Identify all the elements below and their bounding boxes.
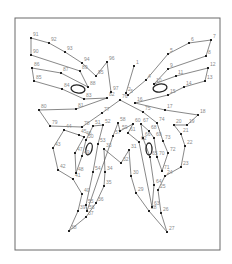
dot-number-label: 79 bbox=[52, 119, 58, 125]
dot-number-label: 40 bbox=[84, 187, 90, 193]
dot-number-label: 31 bbox=[131, 143, 137, 149]
dot-number-label: 3 bbox=[130, 88, 133, 94]
dot-number-label: 44 bbox=[66, 123, 72, 129]
dot-marker bbox=[97, 143, 99, 145]
dot-number-label: 7 bbox=[213, 33, 216, 39]
dot-number-label: 54 bbox=[95, 165, 101, 171]
dot-number-label: 39 bbox=[80, 204, 86, 210]
dot-number-label: 43 bbox=[55, 141, 61, 147]
dot-number-label: 65 bbox=[152, 150, 158, 156]
dot-marker bbox=[81, 62, 83, 64]
dot-marker bbox=[112, 135, 114, 137]
dot-marker bbox=[85, 204, 87, 206]
dot-number-label: 48 bbox=[78, 166, 84, 172]
dot-number-label: 26 bbox=[163, 206, 169, 212]
dot-number-label: 96 bbox=[109, 55, 115, 61]
dot-number-label: 30 bbox=[133, 169, 139, 175]
dot-marker bbox=[63, 129, 65, 131]
dot-marker bbox=[173, 124, 175, 126]
dot-marker bbox=[87, 86, 89, 88]
dot-number-label: 37 bbox=[88, 210, 94, 216]
dot-marker bbox=[48, 42, 50, 44]
dot-marker bbox=[153, 184, 155, 186]
dot-marker bbox=[210, 39, 212, 41]
dot-number-label: 91 bbox=[33, 31, 39, 37]
dot-marker bbox=[164, 109, 166, 111]
dot-marker bbox=[31, 67, 33, 69]
dot-marker bbox=[61, 88, 63, 90]
dot-number-label: 36 bbox=[98, 196, 104, 202]
dot-marker bbox=[153, 83, 155, 85]
dot-marker bbox=[83, 136, 85, 138]
dot-number-label: 34 bbox=[107, 165, 113, 171]
dot-number-label: 64 bbox=[156, 178, 162, 184]
dot-marker bbox=[77, 210, 79, 212]
dot-marker bbox=[205, 55, 207, 57]
dot-number-label: 74 bbox=[159, 116, 165, 122]
dot-marker bbox=[30, 54, 32, 56]
dot-marker bbox=[140, 123, 142, 125]
dot-marker bbox=[127, 132, 129, 134]
dot-marker bbox=[186, 124, 188, 126]
dot-marker bbox=[149, 156, 151, 158]
dot-number-label: 33 bbox=[106, 142, 112, 148]
dot-number-label: 81 bbox=[78, 102, 84, 108]
dot-number-label: 70 bbox=[159, 150, 165, 156]
dot-marker bbox=[81, 193, 83, 195]
dot-marker bbox=[106, 97, 108, 99]
dot-marker bbox=[183, 86, 185, 88]
dot-number-label: 60 bbox=[135, 117, 141, 123]
dot-number-label: 58 bbox=[120, 116, 126, 122]
dot-marker bbox=[180, 133, 182, 135]
dot-marker bbox=[207, 67, 209, 69]
dot-marker bbox=[161, 170, 163, 172]
dot-marker bbox=[95, 202, 97, 204]
dot-number-label: 17 bbox=[167, 103, 173, 109]
dot-marker bbox=[184, 145, 186, 147]
dot-marker bbox=[156, 122, 158, 124]
dot-number-label: 42 bbox=[60, 163, 66, 169]
dot-number-label: 32 bbox=[123, 156, 129, 162]
dot-number-label: 97 bbox=[113, 85, 119, 91]
dot-marker bbox=[135, 192, 137, 194]
dot-marker bbox=[74, 152, 76, 154]
dot-number-label: 72 bbox=[170, 146, 176, 152]
dot-marker bbox=[148, 130, 150, 132]
dot-number-label: 69 bbox=[156, 131, 162, 137]
dot-marker bbox=[157, 189, 159, 191]
dot-number-label: 22 bbox=[187, 139, 193, 145]
dot-number-label: 75 bbox=[145, 105, 151, 111]
dot-number-label: 56 bbox=[89, 204, 95, 210]
dot-marker bbox=[81, 155, 83, 157]
dot-to-dot-puzzle: 1234567891011121314151617181920212223242… bbox=[0, 0, 232, 264]
dot-number-label: 10 bbox=[156, 77, 162, 83]
dot-number-label: 11 bbox=[178, 69, 183, 75]
dot-marker bbox=[130, 175, 132, 177]
dot-number-label: 9 bbox=[170, 62, 173, 68]
dot-marker bbox=[204, 80, 206, 82]
dot-marker bbox=[153, 137, 155, 139]
dot-marker bbox=[60, 72, 62, 74]
dot-marker bbox=[49, 125, 51, 127]
dot-number-label: 90 bbox=[33, 48, 39, 54]
dot-number-label: 38 bbox=[71, 224, 77, 230]
dot-marker bbox=[78, 134, 80, 136]
dot-number-label: 95 bbox=[98, 69, 104, 75]
dot-marker bbox=[75, 172, 77, 174]
dot-number-label: 71 bbox=[164, 164, 170, 170]
dot-number-label: 93 bbox=[67, 45, 73, 51]
dot-marker bbox=[164, 175, 166, 177]
dot-marker bbox=[30, 37, 32, 39]
dot-number-label: 12 bbox=[210, 61, 216, 67]
dot-marker bbox=[72, 178, 74, 180]
dot-number-label: 77 bbox=[104, 106, 110, 112]
dot-number-label: 61 bbox=[130, 126, 136, 132]
dot-marker bbox=[38, 109, 40, 111]
dot-marker bbox=[81, 126, 83, 128]
dot-marker bbox=[68, 230, 70, 232]
dot-marker bbox=[142, 137, 144, 139]
dot-marker bbox=[197, 114, 199, 116]
dot-marker bbox=[110, 91, 112, 93]
dot-number-label: 76 bbox=[122, 93, 128, 99]
dot-number-label: 89 bbox=[82, 64, 88, 70]
